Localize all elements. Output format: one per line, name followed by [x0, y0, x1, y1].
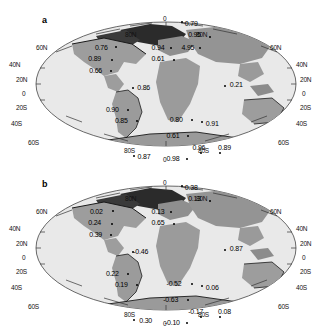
graticule-label-b-left-40s: 40S — [11, 285, 22, 292]
value-label-a-16: 0.89 — [218, 144, 231, 151]
value-marker-b-7 — [132, 251, 134, 253]
graticule-label-b-right-60n: 60N — [270, 209, 281, 216]
graticule-label-b-right-20s: 20S — [300, 269, 311, 276]
graticule-label-a-left-40n: 40N — [9, 62, 20, 69]
panel-a: a — [0, 0, 333, 164]
panel-b: b — [0, 164, 333, 328]
value-label-b-8: 0.87 — [230, 245, 243, 252]
graticule-label-b-right-40n: 40N — [296, 226, 307, 233]
value-marker-b-10 — [136, 284, 138, 286]
value-marker-b-3 — [112, 210, 114, 212]
graticule-label-b-left-20n: 20N — [16, 241, 27, 248]
graticule-label-a-right-20n: 20N — [300, 77, 311, 84]
value-label-a-9: 0.21 — [230, 81, 243, 88]
value-label-b-6: 0.39 — [89, 231, 102, 238]
value-marker-a-1 — [209, 36, 211, 38]
value-label-b-11: -0.52 — [167, 280, 182, 287]
value-marker-b-12 — [201, 285, 203, 287]
graticule-label-a-left-60n: 60N — [36, 45, 47, 52]
value-label-a-0: 0.79 — [185, 20, 198, 27]
graticule-label-b-right-60s: 60S — [278, 304, 289, 311]
graticule-label-a-right-60s: 60S — [278, 140, 289, 147]
graticule-label-b-bottom-80s-left: 80S — [124, 312, 135, 319]
graticule-label-b-left-0: 0 — [22, 255, 25, 262]
value-marker-b-1 — [209, 200, 211, 202]
value-label-b-4: 0.24 — [88, 219, 101, 226]
value-label-b-12: 0.06 — [206, 284, 219, 291]
graticule-label-a-right-40s: 40S — [296, 121, 307, 128]
value-label-a-5: 0.61 — [152, 55, 165, 62]
value-marker-b-6 — [110, 234, 112, 236]
value-marker-a-6 — [111, 59, 113, 61]
graticule-label-b-right-20n: 20N — [300, 241, 311, 248]
value-label-a-8: 0.86 — [137, 84, 150, 91]
value-label-b-9: 0.22 — [106, 270, 119, 277]
value-marker-a-13 — [201, 121, 203, 123]
graticule-label-a-bottom-80s-left: 80S — [124, 148, 135, 155]
value-label-a-7: 0.66 — [89, 67, 102, 74]
value-label-a-15: 0.96 — [192, 144, 205, 151]
value-label-a-3: 4.95 — [181, 44, 194, 51]
value-label-b-1: 0.13 — [188, 195, 201, 202]
value-marker-a-8 — [132, 87, 134, 89]
value-marker-a-7 — [110, 70, 112, 72]
value-marker-a-11 — [136, 120, 138, 122]
value-label-a-13: 0.91 — [206, 120, 219, 127]
graticule-label-b-left-60n: 60N — [36, 209, 47, 216]
value-label-a-4: 0.76 — [95, 44, 108, 51]
value-label-b-7: -0.46 — [133, 248, 148, 255]
graticule-label-a-left-40s: 40S — [11, 121, 22, 128]
graticule-label-a-left-0: 0 — [22, 91, 25, 98]
graticule-label-b-top-0: 0 — [163, 180, 166, 187]
value-label-a-6: 0.89 — [88, 55, 101, 62]
graticule-label-a-left-20s: 20S — [16, 105, 27, 112]
graticule-label-a-left-20n: 20N — [16, 77, 27, 84]
value-label-b-14: -0.17 — [188, 308, 203, 315]
graticule-label-a-right-60n: 60N — [270, 45, 281, 52]
value-label-b-13: -0.63 — [163, 296, 178, 303]
value-label-b-15: 0.08 — [218, 308, 231, 315]
value-marker-b-4 — [111, 223, 113, 225]
value-label-a-12: 0.80 — [170, 116, 183, 123]
value-label-b-0: 0.38 — [185, 184, 198, 191]
graticule-label-b-right-0: 0 — [302, 255, 305, 262]
graticule-label-b-left-40n: 40N — [9, 226, 20, 233]
graticule-label-b-left-20s: 20S — [16, 269, 27, 276]
value-marker-a-5 — [173, 59, 175, 61]
graticule-label-a-left-60s: 60S — [28, 140, 39, 147]
value-label-a-18: 0.98 — [167, 155, 180, 162]
graticule-label-b-right-40s: 40S — [296, 285, 307, 292]
graticule-label-b-top-80n-left: 80N — [125, 196, 136, 203]
value-label-a-11: 0.85 — [115, 117, 128, 124]
graticule-label-a-right-0: 0 — [302, 91, 305, 98]
value-label-a-10: 0.90 — [106, 106, 119, 113]
value-marker-b-5 — [173, 223, 175, 225]
graticule-label-a-top-80n-left: 80N — [125, 32, 136, 39]
value-label-b-10: 0.19 — [115, 281, 128, 288]
value-label-b-3: 0.02 — [90, 208, 103, 215]
graticule-label-a-right-20s: 20S — [300, 105, 311, 112]
value-marker-a-3 — [199, 47, 201, 49]
value-label-b-17: -0.10 — [165, 319, 180, 326]
value-label-b-2: 0.13 — [152, 208, 165, 215]
value-label-a-1: 0.95 — [188, 31, 201, 38]
graticule-label-a-top-0: 0 — [163, 16, 166, 23]
value-label-a-2: 0.94 — [152, 44, 165, 51]
graticule-label-a-right-40n: 40N — [296, 62, 307, 69]
value-label-a-17: 0.87 — [138, 153, 151, 160]
value-label-b-16: 0.30 — [139, 317, 152, 324]
value-label-b-5: 0.65 — [152, 219, 165, 226]
value-label-a-14: 0.61 — [167, 132, 180, 139]
graticule-label-b-left-60s: 60S — [28, 304, 39, 311]
